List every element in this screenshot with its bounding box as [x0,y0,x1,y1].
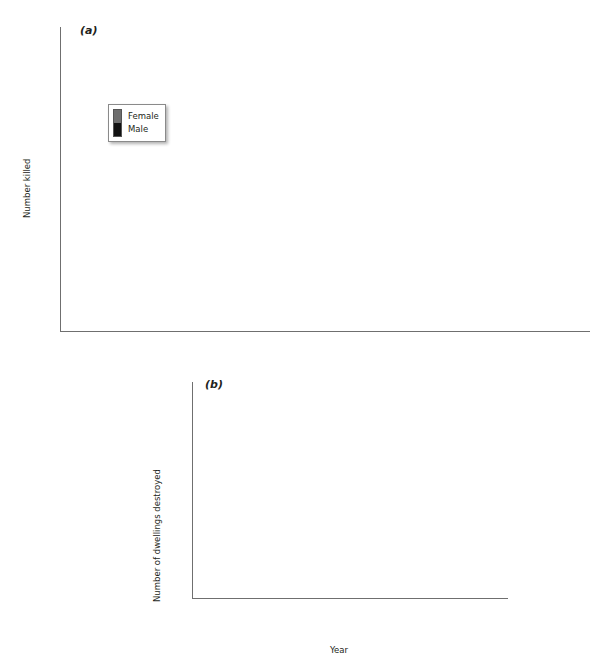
panel-b: (b) Number of dwellings destroyed Year [0,360,605,665]
panel-b-y-axis-title: Number of dwellings destroyed [152,469,162,602]
legend-swatch-female [114,110,121,123]
panel-b-x-axis-title: Year [330,645,348,655]
panel-a-y-axis-title: Number killed [22,159,32,218]
panel-b-bars [193,382,507,598]
legend-label-male: Male [128,123,159,136]
legend-label-female: Female [128,110,159,123]
legend-label-group: Female Male [128,110,159,136]
panel-a-legend: Female Male [108,104,166,142]
legend-swatch-male [114,123,121,136]
figure-root: (a) Number killed Female Male (b) Number… [0,0,605,665]
legend-color-swatch [113,109,122,137]
panel-b-x-axis-line [192,598,508,599]
panel-a-bars [61,27,589,331]
panel-a: (a) Number killed Female Male [0,0,605,360]
panel-a-x-axis-line [60,331,590,332]
